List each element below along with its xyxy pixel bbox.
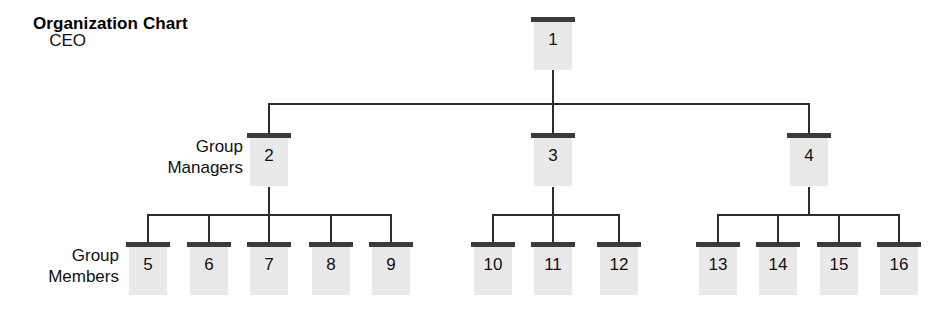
connector-drop-to-node-13 <box>717 214 719 243</box>
org-node-11[interactable]: 11 <box>534 242 572 295</box>
node-cap-icon <box>471 242 515 247</box>
node-cap-icon <box>309 242 353 247</box>
connector-node-3-drop <box>552 187 554 215</box>
connector-drop-to-node-12 <box>618 214 620 243</box>
tier-label-ceo-line-1: CEO <box>49 30 86 51</box>
org-node-6[interactable]: 6 <box>190 242 228 295</box>
org-node-2[interactable]: 2 <box>250 133 288 186</box>
org-node-3[interactable]: 3 <box>534 133 572 186</box>
connector-drop-to-node-14 <box>777 214 779 243</box>
org-node-16-label: 16 <box>880 255 918 275</box>
org-node-10-label: 10 <box>474 255 512 275</box>
connector-drop-to-node-16 <box>898 214 900 243</box>
org-node-8-label: 8 <box>312 255 350 275</box>
tier-label-group-members-line-2: Members <box>48 266 119 287</box>
org-node-12-label: 12 <box>600 255 638 275</box>
connector-drop-to-node-5 <box>147 214 149 243</box>
org-node-13[interactable]: 13 <box>699 242 737 295</box>
org-node-12[interactable]: 12 <box>600 242 638 295</box>
connector-drop-to-node-4 <box>808 103 810 134</box>
org-node-7-label: 7 <box>250 255 288 275</box>
node-cap-icon <box>369 242 413 247</box>
org-node-14-label: 14 <box>759 255 797 275</box>
connector-drop-to-node-15 <box>838 214 840 243</box>
org-node-14[interactable]: 14 <box>759 242 797 295</box>
node-cap-icon <box>696 242 740 247</box>
node-cap-icon <box>531 17 575 22</box>
tier-label-group-managers-line-2: Managers <box>167 157 243 178</box>
connector-drop-to-node-9 <box>390 214 392 243</box>
tier-label-group-members-line-1: Group <box>48 245 119 266</box>
connector-drop-to-node-7 <box>268 214 270 243</box>
connector-group-2-bus <box>492 214 620 216</box>
connector-group-3-bus <box>717 214 899 216</box>
connector-drop-to-node-2 <box>268 103 270 134</box>
org-node-4-label: 4 <box>790 146 828 166</box>
connector-drop-to-node-10 <box>492 214 494 243</box>
org-node-8[interactable]: 8 <box>312 242 350 295</box>
tier-label-group-managers-line-1: Group <box>167 136 243 157</box>
tier-label-ceo: CEO <box>49 30 86 51</box>
node-cap-icon <box>877 242 921 247</box>
connector-drop-to-node-3 <box>552 103 554 134</box>
org-node-5-label: 5 <box>129 255 167 275</box>
org-node-11-label: 11 <box>534 255 572 275</box>
node-cap-icon <box>531 133 575 138</box>
connector-ceo-drop <box>552 70 554 105</box>
node-cap-icon <box>126 242 170 247</box>
org-node-9[interactable]: 9 <box>372 242 410 295</box>
connector-drop-to-node-8 <box>330 214 332 243</box>
org-node-13-label: 13 <box>699 255 737 275</box>
node-cap-icon <box>817 242 861 247</box>
org-node-6-label: 6 <box>190 255 228 275</box>
org-node-16[interactable]: 16 <box>880 242 918 295</box>
node-cap-icon <box>247 242 291 247</box>
org-node-2-label: 2 <box>250 146 288 166</box>
org-node-1[interactable]: 1 <box>534 17 572 70</box>
org-node-10[interactable]: 10 <box>474 242 512 295</box>
org-node-15[interactable]: 15 <box>820 242 858 295</box>
org-node-5[interactable]: 5 <box>129 242 167 295</box>
connector-node-2-drop <box>268 187 270 215</box>
node-cap-icon <box>247 133 291 138</box>
org-node-3-label: 3 <box>534 146 572 166</box>
connector-node-4-drop <box>808 187 810 215</box>
tier-label-group-members: Group Members <box>48 245 119 287</box>
node-cap-icon <box>187 242 231 247</box>
tier-label-group-managers: Group Managers <box>167 136 243 178</box>
connector-managers-bus <box>268 103 810 105</box>
org-node-7[interactable]: 7 <box>250 242 288 295</box>
connector-drop-to-node-6 <box>208 214 210 243</box>
node-cap-icon <box>787 133 831 138</box>
organization-chart: Organization Chart CEO Group Managers Gr… <box>0 0 949 312</box>
org-node-1-label: 1 <box>534 30 572 50</box>
node-cap-icon <box>597 242 641 247</box>
node-cap-icon <box>531 242 575 247</box>
org-node-15-label: 15 <box>820 255 858 275</box>
connector-drop-to-node-11 <box>552 214 554 243</box>
node-cap-icon <box>756 242 800 247</box>
org-node-4[interactable]: 4 <box>790 133 828 186</box>
org-node-9-label: 9 <box>372 255 410 275</box>
